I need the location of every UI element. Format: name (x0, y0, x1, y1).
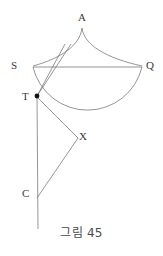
figure-caption: 그림 45 (0, 226, 163, 240)
vertex-label-a: A (78, 12, 86, 23)
cusp-curve-left (33, 28, 82, 66)
vertex-label-t: T (22, 91, 29, 102)
vertex-label-x: X (79, 131, 87, 142)
line-t-apex-inner (37, 44, 65, 96)
vertex-label-s: S (11, 60, 17, 71)
axis-t-c-bottom (37, 95, 38, 229)
cusp-curve-right (82, 28, 142, 66)
vertex-label-q: Q (146, 60, 154, 71)
vertex-label-c: C (22, 188, 29, 199)
line-t-x (37, 97, 78, 138)
geometry-drawing (0, 0, 163, 256)
line-x-c (37, 138, 78, 198)
figure-45-container: A S Q T X C 그림 45 (0, 0, 163, 256)
point-marker-t (35, 94, 40, 99)
line-t-apex-secondary (37, 44, 71, 96)
